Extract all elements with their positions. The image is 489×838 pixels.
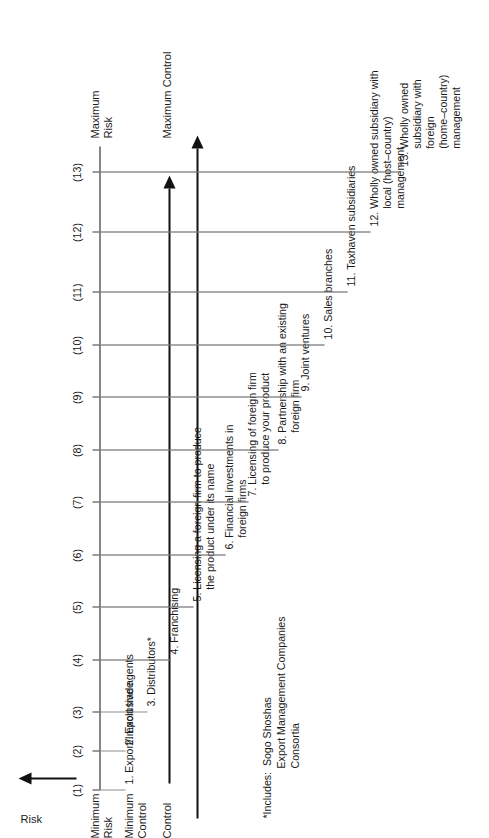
maximum-risk-label: Maximum Risk <box>88 90 114 138</box>
risk-direction-arrow-head <box>18 772 31 784</box>
plot-gridline-9 <box>100 396 301 397</box>
item-label-2: 2. Exclusive agents <box>122 654 135 745</box>
control-arrow-head-upper <box>163 175 175 188</box>
rotated-diagram: Risk (1) (2) (3) (4) (5) (6) (7) (8) (9) <box>0 0 489 838</box>
item-label-13: 13. Wholly owned subsidiary with foreign… <box>397 74 462 166</box>
footnote-text: *Includes: Sogo Shoshas Export Managemen… <box>260 616 301 818</box>
tick-2 <box>92 750 99 751</box>
tick-6 <box>92 554 99 555</box>
tick-label-6: (6) <box>70 549 82 562</box>
plot-gridline-13 <box>100 171 400 172</box>
item-label-5: 5. Licensing a foreign firm to produce t… <box>190 427 216 601</box>
tick-1 <box>92 789 99 790</box>
tick-4 <box>92 659 99 660</box>
control-arrow-shaft-upper <box>168 188 170 783</box>
tick-label-1: (1) <box>70 784 82 797</box>
tick-label-5: (5) <box>70 601 82 614</box>
risk-axis-title: Risk <box>20 812 42 824</box>
tick-label-3: (3) <box>70 706 82 719</box>
plot-gridline-5 <box>100 606 193 607</box>
item-label-10: 10. Sales branches <box>321 248 334 339</box>
tick-label-10: (10) <box>70 336 82 355</box>
leader-1 <box>100 789 125 790</box>
tick-8 <box>92 449 99 450</box>
tick-5 <box>92 606 99 607</box>
tick-12 <box>92 231 99 232</box>
plot-gridline-12 <box>100 231 370 232</box>
tick-label-4: (4) <box>70 654 82 667</box>
tick-9 <box>92 396 99 397</box>
plot-gridline-6 <box>100 554 225 555</box>
item-label-6: 6. Financial investments in foreign firm… <box>222 424 248 549</box>
figure-canvas: Risk (1) (2) (3) (4) (5) (6) (7) (8) (9) <box>0 0 489 838</box>
maximum-control-label: Maximum Control <box>160 51 173 138</box>
control-arrow-shaft-lower <box>196 148 198 818</box>
item-label-3: 3. Distributors* <box>144 637 157 706</box>
minimum-control-label: Minimum Control <box>122 793 148 838</box>
item-label-11: 11. Taxhaven subsidiaries <box>344 165 357 286</box>
tick-10 <box>92 344 99 345</box>
plot-gridline-4 <box>100 659 170 660</box>
item-label-8: 8. Partnership with an existing foreign … <box>275 303 301 444</box>
plot-gridline-10 <box>100 344 324 345</box>
plot-gridline-11 <box>100 291 347 292</box>
risk-axis-line <box>99 146 100 790</box>
tick-label-2: (2) <box>70 745 82 758</box>
tick-label-9: (9) <box>70 391 82 404</box>
item-label-9: 9. Joint ventures <box>298 313 311 391</box>
plot-gridline-8 <box>100 449 278 450</box>
risk-direction-arrow-shaft <box>30 777 76 779</box>
leader-2 <box>100 750 125 751</box>
tick-11 <box>92 291 99 292</box>
tick-7 <box>92 501 99 502</box>
control-arrow-head-lower <box>191 135 203 148</box>
plot-gridline-7 <box>100 501 248 502</box>
control-label: Control <box>160 802 173 838</box>
tick-label-7: (7) <box>70 496 82 509</box>
tick-13 <box>92 171 99 172</box>
item-label-7: 7. Licensing of foreign firm to produce … <box>245 372 271 496</box>
tick-3 <box>92 711 99 712</box>
tick-label-11: (11) <box>70 283 82 301</box>
tick-label-13: (13) <box>70 163 82 182</box>
tick-label-12: (12) <box>70 223 82 242</box>
tick-label-8: (8) <box>70 444 82 457</box>
minimum-risk-label: Minimum Risk <box>88 793 114 838</box>
